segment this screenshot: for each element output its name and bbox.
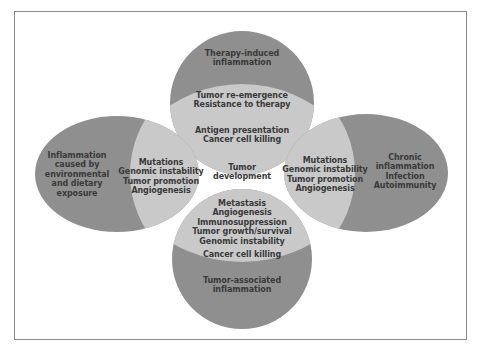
left-outer-line: caused by xyxy=(37,160,117,169)
right-outer-line: Infection xyxy=(365,172,445,181)
bottom-outer-line: inflammation xyxy=(182,285,302,294)
bottom-inner-upper-line: Metastasis xyxy=(182,199,302,208)
bottom-outer-label: Tumor-associated inflammation xyxy=(182,276,302,295)
bottom-inner-lower-label: Cancer cell killing xyxy=(182,250,302,259)
left-outer-line: and dietary xyxy=(37,179,117,188)
top-inner-upper-line: Tumor re-emergence xyxy=(182,91,302,100)
bottom-inner-upper-line: Immunosuppression xyxy=(182,218,302,227)
top-inner-lower-label: Antigen presentation Cancer cell killing xyxy=(182,126,302,145)
bottom-inner-lower-line: Cancer cell killing xyxy=(182,250,302,259)
top-inner-upper-line: Resistance to therapy xyxy=(182,100,302,109)
center-label-line: Tumor xyxy=(202,163,282,172)
left-outer-label: Inflammation caused by environmental and… xyxy=(37,151,117,198)
center-label: Tumor development xyxy=(202,163,282,182)
left-inner-label: Mutations Genomic instability Tumor prom… xyxy=(116,158,206,196)
left-inner-line: Tumor promotion xyxy=(116,177,206,186)
left-inner-line: Mutations xyxy=(116,158,206,167)
right-inner-label: Mutations Genomic instability Tumor prom… xyxy=(280,156,370,194)
bottom-inner-upper-line: Angiogenesis xyxy=(182,208,302,217)
top-outer-line: inflammation xyxy=(192,58,292,67)
right-outer-label: Chronic inflammation Infection Autoimmun… xyxy=(365,153,445,191)
right-inner-line: Mutations xyxy=(280,156,370,165)
right-inner-line: Angiogenesis xyxy=(280,184,370,193)
left-outer-line: exposure xyxy=(37,189,117,198)
right-outer-line: inflammation xyxy=(365,162,445,171)
center-label-line: development xyxy=(202,172,282,181)
bottom-inner-upper-line: Tumor growth/survival xyxy=(182,227,302,236)
top-inner-lower-line: Cancer cell killing xyxy=(182,135,302,144)
bottom-inner-upper-line: Genomic instability xyxy=(182,237,302,246)
left-inner-line: Angiogenesis xyxy=(116,186,206,195)
right-inner-line: Genomic instability xyxy=(280,165,370,174)
right-outer-line: Chronic xyxy=(365,153,445,162)
top-inner-lower-line: Antigen presentation xyxy=(182,126,302,135)
top-outer-line: Therapy-induced xyxy=(192,49,292,58)
left-inner-line: Genomic instability xyxy=(116,167,206,176)
right-inner-line: Tumor promotion xyxy=(280,175,370,184)
bottom-outer-line: Tumor-associated xyxy=(182,276,302,285)
bottom-inner-upper-label: Metastasis Angiogenesis Immunosuppressio… xyxy=(182,199,302,246)
right-outer-line: Autoimmunity xyxy=(365,181,445,190)
top-inner-upper-label: Tumor re-emergence Resistance to therapy xyxy=(182,91,302,110)
top-outer-label: Therapy-induced inflammation xyxy=(192,49,292,68)
left-outer-line: Inflammation xyxy=(37,151,117,160)
left-outer-line: environmental xyxy=(37,170,117,179)
